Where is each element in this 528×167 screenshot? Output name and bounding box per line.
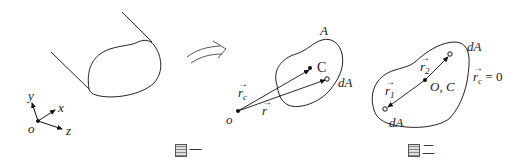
area-region-1 <box>276 39 343 106</box>
vector-label-rc: →rc <box>238 86 247 102</box>
vector-label-r: →r <box>262 104 267 117</box>
curved-arrow-icon <box>187 41 226 63</box>
vector-rc <box>238 70 309 111</box>
position-vectors-1 <box>238 70 325 111</box>
prism-drawing <box>51 12 161 97</box>
origin-label-o: o <box>226 113 233 126</box>
prism-edge-lower <box>51 52 89 89</box>
element-label-da-top: dA <box>467 40 481 53</box>
y-axis-label: y <box>28 89 34 102</box>
z-axis-arrow <box>38 121 62 129</box>
figure-caption-1: 图一 <box>175 143 202 157</box>
prism-edge-upper <box>122 12 152 42</box>
vector-arrow-icon: → <box>262 97 272 107</box>
vector-arrow-icon: → <box>385 77 395 87</box>
caption-glyph-tu: 图 <box>408 144 420 157</box>
prism-cross-section <box>88 40 161 97</box>
element-label-da-bottom: dA <box>389 116 403 129</box>
centroid-label-c: C <box>317 61 326 75</box>
x-axis-arrow <box>38 110 55 121</box>
area-label-a: A <box>320 24 328 37</box>
centroid-point-c <box>308 66 312 70</box>
z-axis-label: z <box>66 124 71 137</box>
vector-r <box>238 80 325 111</box>
element-point-da-top <box>448 52 452 56</box>
origin-point-o <box>236 109 240 113</box>
element-label-da: dA <box>338 76 352 89</box>
vector-arrow-icon: → <box>473 63 483 73</box>
center-point-oc <box>423 78 427 82</box>
caption-glyph-tu: 图 <box>175 144 187 157</box>
equation-rc-zero: →rc = 0 <box>473 70 502 86</box>
vector-label-r2: →r2 <box>420 60 430 76</box>
x-axis-label: x <box>58 101 64 114</box>
figure-caption-2: 图二 <box>408 143 435 157</box>
vector-arrow-icon: → <box>238 79 248 89</box>
vector-label-r1: →r1 <box>385 84 395 100</box>
element-point-da <box>325 77 329 81</box>
element-point-da-bottom <box>383 107 387 111</box>
axes-origin-label: o <box>28 122 35 135</box>
origin-dot <box>37 120 40 123</box>
y-axis-arrow <box>32 103 38 121</box>
vector-arrow-icon: → <box>420 53 430 63</box>
center-label-oc: O, C <box>430 80 455 93</box>
